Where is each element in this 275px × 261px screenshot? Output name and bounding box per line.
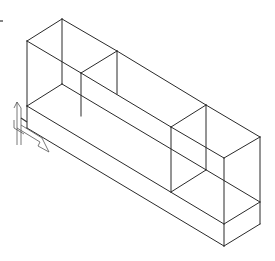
model-edge [224,202,260,224]
model-edge [117,51,206,105]
model-edge [27,19,62,41]
model-edge [81,73,171,127]
model-edge [27,128,224,246]
model-edge [171,105,206,127]
drawing-viewport[interactable] [0,0,275,261]
model-edge [206,105,260,137]
model-edge [81,51,117,73]
model-edge [62,84,260,202]
wireframe-drawing [0,0,275,261]
model-edge [27,41,81,73]
model-edge [27,84,62,106]
model-edges [27,19,260,246]
model-edge [62,19,117,51]
model-edge [224,224,260,246]
ucs-icon [14,102,49,152]
model-edge [224,137,260,158]
model-edge [171,170,206,192]
model-edge [27,106,224,224]
